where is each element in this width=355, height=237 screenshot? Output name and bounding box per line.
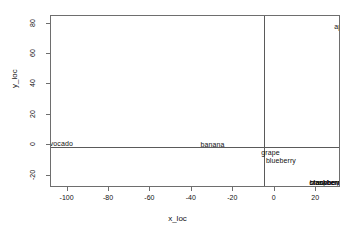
x-axis-tick bbox=[149, 187, 150, 191]
x-axis-tick bbox=[274, 187, 275, 191]
y-axis-tick bbox=[46, 23, 50, 24]
reference-line-x0 bbox=[264, 16, 265, 186]
y-axis-tick-label-text: 60 bbox=[29, 42, 37, 64]
y-axis-tick bbox=[46, 114, 50, 115]
y-axis-tick-label: 20 bbox=[22, 110, 44, 118]
y-axis-tick-label-text: 20 bbox=[29, 103, 37, 125]
y-axis-tick-label: 40 bbox=[22, 79, 44, 87]
x-axis-tick bbox=[232, 187, 233, 191]
point-label: blueberry bbox=[266, 157, 296, 165]
point-label: cranberry bbox=[309, 179, 339, 187]
x-axis-tick-label: -40 bbox=[186, 194, 196, 202]
plot-panel: applevocadobananagrapeblueberrystrawberr… bbox=[50, 15, 340, 187]
x-axis-tick-label: 20 bbox=[311, 194, 319, 202]
y-axis-tick bbox=[46, 83, 50, 84]
x-axis-tick bbox=[191, 187, 192, 191]
point-label: apple bbox=[334, 23, 340, 31]
x-axis-tick bbox=[315, 187, 316, 191]
y-axis-tick bbox=[46, 175, 50, 176]
reference-line-y0 bbox=[51, 147, 339, 148]
point-label: vocado bbox=[50, 140, 73, 148]
y-axis-tick-label: -20 bbox=[22, 171, 44, 179]
x-axis-tick-label: 0 bbox=[272, 194, 276, 202]
x-axis-tick bbox=[67, 187, 68, 191]
x-axis-tick-label: -20 bbox=[227, 194, 237, 202]
x-axis-tick-label: -100 bbox=[60, 194, 74, 202]
y-axis-title: y_loc bbox=[10, 69, 20, 88]
x-axis-tick bbox=[108, 187, 109, 191]
y-axis-tick-label-text: 80 bbox=[29, 12, 37, 34]
y-axis-tick-label-text: 0 bbox=[29, 133, 37, 155]
x-axis-tick-label: -60 bbox=[144, 194, 154, 202]
y-axis-tick bbox=[46, 53, 50, 54]
y-axis-tick-label-text: -20 bbox=[29, 164, 37, 186]
x-axis-title: x_loc bbox=[0, 214, 355, 224]
y-axis-tick bbox=[46, 144, 50, 145]
y-axis-tick-label: 0 bbox=[22, 140, 44, 148]
point-label: banana bbox=[201, 141, 225, 149]
y-axis-tick-label-text: 40 bbox=[29, 72, 37, 94]
y-axis-tick-label: 60 bbox=[22, 49, 44, 57]
y-axis-tick-label: 80 bbox=[22, 19, 44, 27]
x-axis-tick-label: -80 bbox=[103, 194, 113, 202]
scatter-plot: applevocadobananagrapeblueberrystrawberr… bbox=[0, 0, 355, 237]
